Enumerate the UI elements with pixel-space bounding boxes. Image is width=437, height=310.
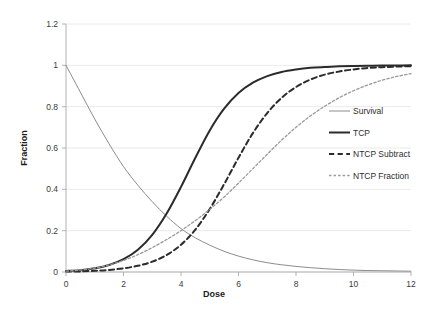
x-axis-title: Dose <box>203 289 225 299</box>
y-tick-label: 0.8 <box>46 102 58 112</box>
legend-label-ntcp-subtract: NTCP Subtract <box>353 149 411 159</box>
y-tick-label: 0.2 <box>46 226 58 236</box>
data-series-group <box>66 65 411 271</box>
y-tick-label: 1.2 <box>46 19 58 29</box>
x-tick-label: 4 <box>179 279 184 289</box>
y-tick-label: 0.4 <box>46 184 58 194</box>
y-tick-labels: 00.20.40.60.811.2 <box>46 19 58 277</box>
chart-plot: 00.20.40.60.811.2 024681012 SurvivalTCPN… <box>0 0 437 310</box>
x-tick-label: 10 <box>349 279 359 289</box>
x-tick-label: 2 <box>121 279 126 289</box>
chart-container: 00.20.40.60.811.2 024681012 SurvivalTCPN… <box>0 0 437 310</box>
x-tick-label: 12 <box>406 279 416 289</box>
y-axis-title: Fraction <box>19 130 29 166</box>
y-tick-label: 0.6 <box>46 143 58 153</box>
series-line-tcp <box>66 65 411 271</box>
legend-label-tcp: TCP <box>353 128 370 138</box>
legend-label-ntcp-fraction: NTCP Fraction <box>353 171 409 181</box>
y-tick-label: 0 <box>53 267 58 277</box>
x-tick-labels: 024681012 <box>64 279 416 289</box>
series-line-ntcp-subtract <box>66 66 411 271</box>
legend-label-survival: Survival <box>353 106 383 116</box>
x-tick-label: 0 <box>64 279 69 289</box>
x-tick-label: 8 <box>294 279 299 289</box>
legend: SurvivalTCPNTCP SubtractNTCP Fraction <box>329 106 411 181</box>
series-line-survival <box>66 65 411 271</box>
x-tick-label: 6 <box>236 279 241 289</box>
y-tick-label: 1 <box>53 60 58 70</box>
gridlines <box>66 24 411 272</box>
